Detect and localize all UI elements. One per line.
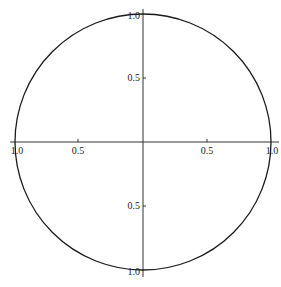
- x-tick-label-right-1: 1.0: [266, 145, 279, 156]
- unit-circle-figure: 1.0 0.5 0.5 1.0 1.0 0.5 0.5 1.0: [0, 0, 281, 287]
- x-tick-label-right-05: 0.5: [201, 145, 214, 156]
- y-tick-label-top-05: 0.5: [128, 72, 141, 83]
- y-tick-label-bottom-05: 0.5: [128, 200, 141, 211]
- x-tick-label-left-05: 0.5: [72, 145, 85, 156]
- y-tick-label-bottom-1: 1.0: [128, 266, 141, 277]
- x-tick-label-left-1: 1.0: [11, 145, 24, 156]
- y-tick-label-top-1: 1.0: [128, 10, 141, 21]
